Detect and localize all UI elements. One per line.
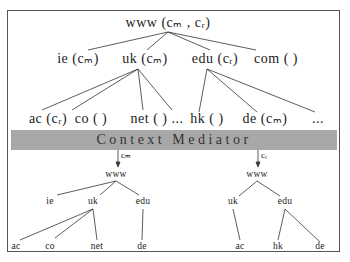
node-label: hk — [190, 111, 205, 126]
node-co-top: co ( ) — [75, 112, 108, 126]
node-ie-left: ie — [46, 197, 53, 207]
node-label: net — [131, 111, 150, 126]
node-contexts: (cₘ) — [141, 51, 168, 66]
node-contexts: (cₘ , cᵣ) — [161, 15, 210, 30]
node-hk-top: hk ( ) — [190, 112, 223, 126]
node-contexts: (cᵣ) — [217, 51, 238, 66]
node-contexts: ( ) — [284, 51, 298, 66]
node-de-left: de — [137, 242, 147, 252]
node-uk-right: uk — [228, 197, 238, 207]
node-contexts: (cᵣ) — [46, 111, 67, 126]
node-com-top: com ( ) — [254, 52, 298, 66]
node-www-top: www (cₘ , cᵣ) — [126, 16, 211, 30]
node-contexts: ( ) — [209, 111, 223, 126]
node-www-right: www — [246, 170, 267, 180]
node-co-left: co — [45, 242, 55, 252]
node-uk-left: uk — [88, 197, 98, 207]
node-ac-left: ac — [11, 242, 20, 252]
node-net-left: net — [91, 242, 104, 252]
context-mediator-bar: Context Mediator — [11, 130, 337, 150]
node-label: ac — [29, 111, 42, 126]
node-ac-right: ac — [235, 242, 244, 252]
node-label: www — [126, 15, 158, 30]
node-de-right: de — [315, 242, 325, 252]
context-label-left: cₘ — [121, 151, 131, 160]
node-de-top: de (cₘ) — [243, 112, 288, 126]
node-ellipsis-top: ... — [312, 112, 324, 126]
node-label: ... — [312, 111, 324, 126]
node-label: com — [254, 51, 280, 66]
node-label: edu — [192, 51, 214, 66]
node-ac-top: ac (cᵣ) — [29, 112, 67, 126]
node-label: de — [243, 111, 257, 126]
node-net-top: net ( ) ... — [131, 112, 184, 126]
node-edu-left: edu — [136, 197, 151, 207]
node-contexts: ( ) ... — [153, 111, 183, 126]
context-label-right: cᵣ — [261, 151, 267, 160]
node-contexts: ( ) — [93, 111, 107, 126]
node-contexts: (cₘ) — [261, 111, 288, 126]
node-www-left: www — [105, 170, 126, 180]
node-uk-top: uk (cₘ) — [122, 52, 168, 66]
mediator-label: Context Mediator — [96, 132, 251, 148]
node-hk-right: hk — [273, 242, 283, 252]
node-edu-top: edu (cᵣ) — [192, 52, 238, 66]
node-label: co — [75, 111, 89, 126]
node-edu-right: edu — [278, 197, 293, 207]
node-contexts: (cₘ) — [72, 51, 99, 66]
node-label: uk — [122, 51, 137, 66]
node-ie-top: ie (cₘ) — [57, 52, 99, 66]
node-label: ie — [57, 51, 68, 66]
